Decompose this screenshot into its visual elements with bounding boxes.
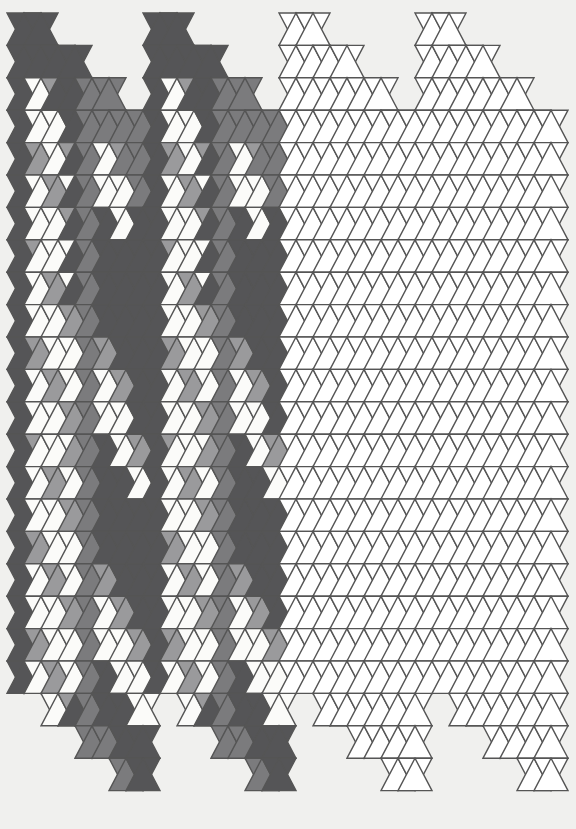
artboard <box>0 0 576 829</box>
panel-group <box>7 13 568 791</box>
panel-1 <box>7 13 160 791</box>
panel-4 <box>415 13 568 791</box>
triangle-tiling-canvas <box>0 0 576 829</box>
panel-2 <box>143 13 296 791</box>
panel-3 <box>279 13 432 791</box>
